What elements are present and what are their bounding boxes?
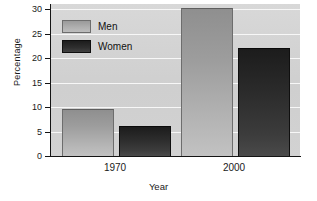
x-axis-line (50, 156, 301, 157)
y-tick-label-20: 20 (2, 53, 42, 63)
legend-swatch-women-icon (62, 40, 91, 53)
legend-swatch-men-icon (62, 20, 91, 33)
legend: Men Women (62, 19, 132, 59)
y-tick-label-10: 10 (2, 102, 42, 112)
legend-label-men: Men (98, 22, 117, 32)
bar-women-1970 (119, 126, 171, 156)
bar-men-2000 (181, 8, 233, 156)
y-tick-label-0: 0 (2, 151, 42, 161)
x-axis-title: Year (0, 181, 317, 192)
y-tick-label-5: 5 (2, 127, 42, 137)
x-tick-label-2000: 2000 (204, 162, 264, 173)
legend-item-women: Women (62, 39, 132, 54)
y-tick-label-30: 30 (2, 4, 42, 14)
y-axis-line (50, 4, 51, 157)
gridline-30 (50, 9, 300, 10)
legend-item-men: Men (62, 19, 132, 34)
y-tick-label-25: 25 (2, 29, 42, 39)
bar-men-1970 (62, 109, 114, 156)
y-tick-label-15: 15 (2, 78, 42, 88)
legend-label-women: Women (98, 42, 132, 52)
plot-area: Men Women (50, 4, 300, 156)
bar-chart: Percentage 0 5 10 15 20 25 30 (0, 0, 317, 201)
x-tick-label-1970: 1970 (85, 162, 145, 173)
bar-women-2000 (238, 48, 290, 156)
